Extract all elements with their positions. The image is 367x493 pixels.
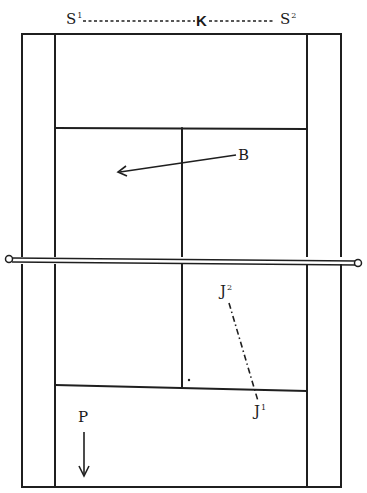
court-svg <box>0 0 367 493</box>
label-s2: S2 <box>280 12 296 27</box>
arrow-p <box>79 432 89 476</box>
label-j1-text: J <box>254 402 260 420</box>
label-k: K <box>196 13 207 28</box>
label-s1-sup: 1 <box>77 11 82 20</box>
net-post-right <box>355 260 362 267</box>
net <box>6 256 362 267</box>
tennis-court-diagram: S1 K S2 B J2 J1 P <box>0 0 367 493</box>
label-b: B <box>238 148 249 163</box>
label-j1-sup: 1 <box>261 403 266 412</box>
dash-dot-path-j1-j2 <box>229 303 258 401</box>
label-s1-text: S <box>66 10 76 28</box>
label-s1: S1 <box>66 12 82 27</box>
net-post-left <box>6 256 13 263</box>
label-j2: J2 <box>220 284 232 299</box>
ball-dot <box>188 379 190 381</box>
label-j1: J1 <box>254 404 266 419</box>
arrow-b <box>118 155 236 176</box>
label-j2-text: J <box>220 282 226 300</box>
label-j2-sup: 2 <box>227 283 232 292</box>
label-s2-sup: 2 <box>291 11 296 20</box>
label-p: P <box>78 410 88 425</box>
label-s2-text: S <box>280 10 290 28</box>
